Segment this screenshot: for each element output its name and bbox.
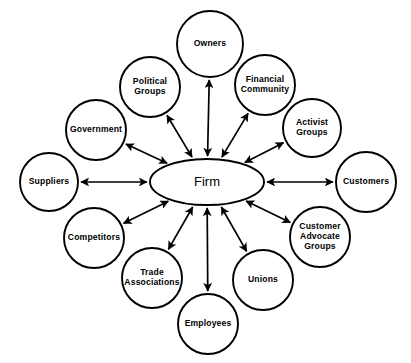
node-customers[interactable]: Customers <box>336 152 396 212</box>
connector-firm-to-government <box>126 144 167 163</box>
node-political-groups[interactable]: PoliticalGroups <box>120 57 180 117</box>
connector-firm-to-political-groups <box>167 115 192 157</box>
node-label-political-groups: PoliticalGroups <box>133 76 167 96</box>
node-activist-groups[interactable]: ActivistGroups <box>283 99 341 157</box>
node-label-financial-community: FinancialCommunity <box>241 74 290 94</box>
connector-firm-to-owners <box>208 80 210 156</box>
hub-label-firm: Firm <box>194 174 220 189</box>
hub-layer: Firm <box>150 159 264 205</box>
node-label-government: Government <box>70 124 122 134</box>
node-label-suppliers: Suppliers <box>29 176 70 186</box>
node-label-activist-groups: ActivistGroups <box>296 117 328 137</box>
node-owners[interactable]: Owners <box>177 11 243 77</box>
node-label-customer-advocate-groups: CustomerAdvocateGroups <box>299 221 341 251</box>
node-customer-advocate-groups[interactable]: CustomerAdvocateGroups <box>290 207 350 267</box>
node-government[interactable]: Government <box>66 100 126 160</box>
connector-firm-to-competitors <box>124 201 169 223</box>
node-firm[interactable]: Firm <box>150 159 264 205</box>
node-label-employees: Employees <box>185 318 232 328</box>
node-unions[interactable]: Unions <box>233 250 293 310</box>
node-suppliers[interactable]: Suppliers <box>20 153 78 211</box>
connector-firm-to-activist-groups <box>245 143 284 163</box>
node-label-owners: Owners <box>194 38 226 48</box>
connector-firm-to-customer-advocate-groups <box>246 201 290 223</box>
node-financial-community[interactable]: FinancialCommunity <box>235 55 295 115</box>
stakeholder-diagram: OwnersPoliticalGroupsFinancialCommunityG… <box>0 0 411 363</box>
node-label-customers: Customers <box>343 176 389 186</box>
connector-firm-to-trade-associations <box>168 207 192 249</box>
node-employees[interactable]: Employees <box>178 294 238 354</box>
node-label-competitors: Competitors <box>68 232 120 242</box>
node-label-unions: Unions <box>248 274 278 284</box>
stakeholder-diagram-canvas: OwnersPoliticalGroupsFinancialCommunityG… <box>0 0 411 363</box>
connector-firm-to-financial-community <box>222 113 248 157</box>
connector-firm-to-employees <box>207 208 208 291</box>
node-trade-associations[interactable]: TradeAssociations <box>122 248 182 308</box>
connector-firm-to-unions <box>221 207 246 251</box>
node-competitors[interactable]: Competitors <box>64 208 124 268</box>
